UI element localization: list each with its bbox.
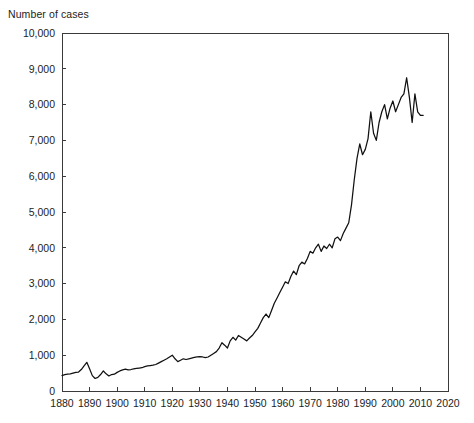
y-axis-tick-label: 1,000 [29,349,55,361]
x-axis-tick-label: 1980 [326,397,350,409]
y-axis-tick-label: 10,000 [23,27,55,39]
x-axis-tick-group: 1880189019001910192019301940195019601970… [50,387,460,409]
y-axis-tick-label: 2,000 [29,313,55,325]
plot-frame-border [62,33,448,391]
x-axis-tick-label: 1900 [105,397,129,409]
chart-figure: Number of cases 01,0002,0003,0004,0005,0… [0,0,474,423]
y-axis-tick-group: 01,0002,0003,0004,0005,0006,0007,0008,00… [23,27,66,397]
x-axis-tick-label: 2000 [381,397,405,409]
y-axis-tick-label: 7,000 [29,134,55,146]
x-axis-tick-label: 1880 [50,397,74,409]
x-axis-tick-label: 1950 [243,397,267,409]
data-series-line [62,78,423,379]
y-axis-tick-label: 3,000 [29,277,55,289]
y-axis-tick-label: 8,000 [29,98,55,110]
x-axis-tick-label: 1890 [78,397,102,409]
line-chart-plot: 01,0002,0003,0004,0005,0006,0007,0008,00… [0,0,474,423]
x-axis-tick-label: 1960 [271,397,295,409]
x-axis-tick-label: 1930 [188,397,212,409]
y-axis-tick-label: 9,000 [29,63,55,75]
y-axis-tick-label: 6,000 [29,170,55,182]
x-axis-tick-label: 1990 [354,397,378,409]
x-axis-tick-label: 1920 [161,397,185,409]
x-axis-tick-label: 1910 [133,397,157,409]
x-axis-tick-label: 1970 [298,397,322,409]
x-axis-tick-label: 2020 [436,397,460,409]
y-axis-tick-label: 0 [49,385,55,397]
y-axis-tick-label: 5,000 [29,206,55,218]
x-axis-tick-label: 1940 [216,397,240,409]
y-axis-tick-label: 4,000 [29,242,55,254]
x-axis-tick-label: 2010 [409,397,433,409]
